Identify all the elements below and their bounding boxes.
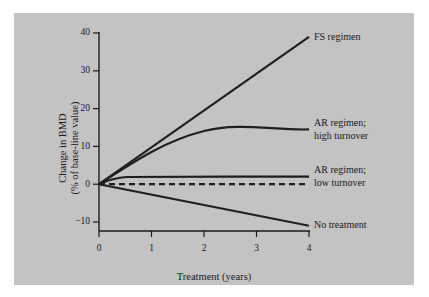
series-line-ar-low-turnover xyxy=(99,177,309,185)
x-tick-label-0: 0 xyxy=(89,244,109,254)
series-label-ar-low-line1: AR regimen; xyxy=(314,164,366,177)
series-label-ar-high-line2: high turnover xyxy=(314,130,368,143)
series-label-ar-low-turnover: AR regimen; low turnover xyxy=(314,164,366,189)
series-line-no-treatment xyxy=(99,184,309,226)
y-axis-title: Change in BMD (% of base-line value) xyxy=(56,73,82,223)
figure-root: 40 30 20 10 0 −10 0 1 2 3 4 Treatment (y… xyxy=(0,0,429,297)
series-label-ar-low-line2: low turnover xyxy=(314,177,366,190)
x-tick-label-1: 1 xyxy=(142,244,162,254)
y-axis-title-line1: Change in BMD xyxy=(57,113,69,182)
x-tick-label-4: 4 xyxy=(299,244,319,254)
x-tick-label-3: 3 xyxy=(247,244,267,254)
series-line-fs-regimen xyxy=(99,37,309,184)
y-tick-label-40: 40 xyxy=(66,28,90,38)
series-label-fs-regimen-text: FS regimen xyxy=(314,31,360,42)
x-axis-title-text: Treatment (years) xyxy=(177,271,252,282)
series-label-ar-high-line1: AR regimen; xyxy=(314,117,368,130)
series-label-no-treatment-text: No treatment xyxy=(314,219,366,230)
x-axis-title: Treatment (years) xyxy=(14,271,414,282)
series-label-fs-regimen: FS regimen xyxy=(314,31,360,44)
x-tick-label-2: 2 xyxy=(194,244,214,254)
series-label-ar-high-turnover: AR regimen; high turnover xyxy=(314,117,368,142)
series-label-no-treatment: No treatment xyxy=(314,219,366,232)
y-axis-title-line2: (% of base-line value) xyxy=(69,102,81,195)
chart-panel: 40 30 20 10 0 −10 0 1 2 3 4 Treatment (y… xyxy=(14,13,414,285)
